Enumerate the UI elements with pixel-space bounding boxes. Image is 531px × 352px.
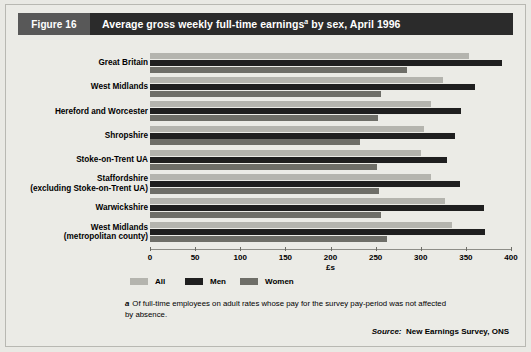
footnote-marker: a bbox=[125, 299, 129, 308]
category-label: West Midlands bbox=[18, 82, 148, 92]
bar-men bbox=[150, 181, 460, 187]
x-axis-tick-label: 200 bbox=[324, 253, 337, 262]
bar-men bbox=[150, 133, 455, 139]
bar-women bbox=[150, 139, 360, 145]
category-label-line: Hereford and Worcester bbox=[18, 107, 148, 117]
x-axis-tick-label: 350 bbox=[459, 253, 472, 262]
x-axis-tick bbox=[466, 247, 467, 251]
x-axis-tick-label: 100 bbox=[234, 253, 247, 262]
bar-all bbox=[150, 101, 431, 107]
figure-title-main: Average gross weekly full-time earnings bbox=[102, 18, 304, 30]
bar-women bbox=[150, 212, 381, 218]
bar-all bbox=[150, 198, 445, 204]
figure-source: Source: New Earnings Survey, ONS bbox=[372, 327, 509, 336]
x-axis-title: £s bbox=[326, 263, 335, 272]
legend-swatch-all bbox=[130, 278, 148, 285]
legend-item-men[interactable]: Men bbox=[185, 276, 226, 286]
bar-men bbox=[150, 108, 461, 114]
bar-women bbox=[150, 67, 407, 73]
plot-area bbox=[150, 51, 511, 249]
x-axis-tick-label: 0 bbox=[148, 253, 152, 262]
category-label-line: (metropolitan county) bbox=[18, 232, 148, 242]
legend-item-all[interactable]: All bbox=[130, 276, 165, 286]
figure-page: Figure 16 Average gross weekly full-time… bbox=[0, 0, 531, 352]
figure-title: Average gross weekly full-time earningsa… bbox=[90, 18, 400, 30]
legend-swatch-women bbox=[240, 278, 258, 285]
bar-women bbox=[150, 115, 378, 121]
bar-all bbox=[150, 53, 469, 59]
bar-all bbox=[150, 174, 431, 180]
legend-label: Men bbox=[210, 277, 226, 286]
figure-footnote: aOf full-time employees on adult rates w… bbox=[125, 299, 455, 320]
legend-label: All bbox=[155, 277, 165, 286]
legend-label: Women bbox=[265, 277, 294, 286]
category-label-line: Staffordshire bbox=[18, 174, 148, 184]
category-label-line: West Midlands bbox=[18, 82, 148, 92]
x-axis-tick bbox=[331, 247, 332, 251]
bar-all bbox=[150, 126, 424, 132]
footnote-text: Of full-time employees on adult rates wh… bbox=[125, 299, 446, 319]
x-axis-tick bbox=[421, 247, 422, 251]
bar-men bbox=[150, 229, 485, 235]
category-label-line: Shropshire bbox=[18, 131, 148, 141]
bar-women bbox=[150, 188, 379, 194]
x-axis-tick-label: 150 bbox=[279, 253, 292, 262]
x-axis-tick-label: 250 bbox=[369, 253, 382, 262]
category-label-line: Stoke-on-Trent UA bbox=[18, 155, 148, 165]
legend-swatch-men bbox=[185, 278, 203, 285]
category-label: Hereford and Worcester bbox=[18, 107, 148, 117]
category-label-line: Warwickshire bbox=[18, 203, 148, 213]
figure-number-tag: Figure 16 bbox=[18, 13, 90, 35]
bar-men bbox=[150, 84, 475, 90]
category-label: Stoke-on-Trent UA bbox=[18, 155, 148, 165]
x-axis-tick-label: 300 bbox=[414, 253, 427, 262]
bar-men bbox=[150, 205, 484, 211]
x-axis-tick-label: 400 bbox=[504, 253, 517, 262]
category-label: West Midlands(metropolitan county) bbox=[18, 223, 148, 242]
source-prefix: Source: bbox=[372, 327, 402, 336]
bar-women bbox=[150, 164, 377, 170]
legend-item-women[interactable]: Women bbox=[240, 276, 294, 286]
x-axis-tick bbox=[376, 247, 377, 251]
category-label: Staffordshire(excluding Stoke-on-Trent U… bbox=[18, 174, 148, 193]
bar-all bbox=[150, 222, 452, 228]
x-axis-tick-label: 50 bbox=[191, 253, 200, 262]
source-text: New Earnings Survey, ONS bbox=[406, 327, 509, 336]
category-label: Great Britain bbox=[18, 58, 148, 68]
category-label-line: West Midlands bbox=[18, 223, 148, 233]
x-axis-tick bbox=[240, 247, 241, 251]
category-label-line: (excluding Stoke-on-Trent UA) bbox=[18, 184, 148, 194]
x-axis-tick bbox=[511, 247, 512, 251]
bar-women bbox=[150, 236, 387, 242]
bar-men bbox=[150, 157, 447, 163]
x-axis-tick bbox=[285, 247, 286, 251]
figure-title-tail: by sex, April 1996 bbox=[308, 18, 400, 30]
bar-all bbox=[150, 77, 443, 83]
category-label: Warwickshire bbox=[18, 203, 148, 213]
category-label-line: Great Britain bbox=[18, 58, 148, 68]
bar-men bbox=[150, 60, 502, 66]
bar-all bbox=[150, 150, 421, 156]
category-label: Shropshire bbox=[18, 131, 148, 141]
x-axis-tick bbox=[195, 247, 196, 251]
bar-women bbox=[150, 91, 381, 97]
chart-panel: Great BritainWest MidlandsHereford and W… bbox=[18, 41, 513, 291]
figure-title-bar: Figure 16 Average gross weekly full-time… bbox=[18, 13, 513, 35]
x-axis-tick bbox=[150, 247, 151, 251]
